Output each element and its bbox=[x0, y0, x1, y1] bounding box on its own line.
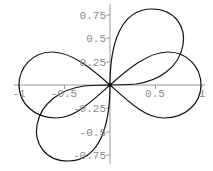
polar-plot: -1 -0.5 0.5 1 0.75 0.5 0.25 -0.25 -0.5 -… bbox=[0, 0, 213, 171]
lobe-upper-right bbox=[110, 9, 184, 85]
y-label: -0.25 bbox=[73, 103, 106, 115]
y-label: 0.25 bbox=[80, 57, 106, 69]
y-label: 0.75 bbox=[80, 10, 106, 22]
x-label: -0.5 bbox=[51, 88, 77, 100]
y-label: -0.75 bbox=[73, 150, 106, 162]
x-label: 0.5 bbox=[145, 88, 165, 100]
x-label: 1 bbox=[199, 88, 206, 100]
y-label: 0.5 bbox=[86, 33, 106, 45]
x-label: -1 bbox=[12, 88, 26, 100]
origin-point bbox=[108, 83, 112, 87]
y-label: -0.5 bbox=[80, 127, 106, 139]
